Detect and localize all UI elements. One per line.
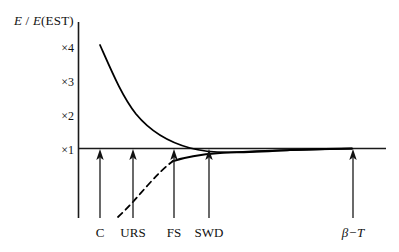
annotation-arrow-c bbox=[96, 149, 103, 218]
x-tick-label-swd: SWD bbox=[195, 226, 224, 239]
annotation-arrow-swd bbox=[205, 149, 212, 218]
x-tick-label-urs: URS bbox=[120, 226, 145, 239]
y-tick-label-3: ×3 bbox=[46, 76, 74, 88]
x-tick-label-fs: FS bbox=[167, 226, 181, 239]
chart-plot-area bbox=[0, 0, 399, 252]
annotation-arrow-beta-t bbox=[349, 149, 356, 218]
y-tick-label-4: ×4 bbox=[46, 42, 74, 54]
y-tick-label-1: ×1 bbox=[46, 144, 74, 156]
annotation-arrow-urs bbox=[129, 149, 136, 218]
upper-curve bbox=[100, 45, 352, 152]
x-tick-label-beta-t: β−T bbox=[342, 226, 364, 239]
y-axis-label: E / E(EST) bbox=[14, 14, 74, 27]
lower-curve-dashed bbox=[118, 161, 173, 217]
chart-figure: E / E(EST) ×4 ×3 ×2 ×1 C URS FS SWD β−T bbox=[0, 0, 399, 252]
y-tick-label-2: ×2 bbox=[46, 110, 74, 122]
x-tick-label-c: C bbox=[96, 226, 105, 239]
